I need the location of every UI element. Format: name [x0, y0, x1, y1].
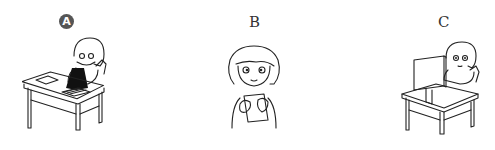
- option-b-illustration[interactable]: [224, 44, 286, 130]
- option-a-illustration[interactable]: [22, 36, 108, 132]
- option-a-label-selected[interactable]: A: [59, 14, 74, 29]
- option-b-label[interactable]: B: [249, 15, 260, 30]
- option-c-illustration[interactable]: [400, 40, 480, 136]
- option-c-label[interactable]: C: [438, 15, 449, 30]
